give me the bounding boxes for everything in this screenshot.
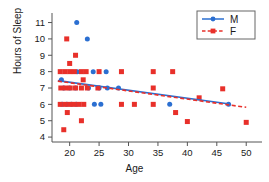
data-point-f <box>132 102 137 107</box>
x-tick-label: 50 <box>241 147 252 158</box>
data-point-f <box>79 118 84 123</box>
data-point-f <box>97 69 102 74</box>
data-point-f <box>185 119 190 124</box>
data-point-f <box>72 69 77 74</box>
data-point-f <box>151 69 156 74</box>
y-axis: 4567891011 <box>34 13 52 142</box>
y-tick-label: 11 <box>35 17 45 28</box>
x-tick-label: 35 <box>153 147 164 158</box>
x-tick-label: 40 <box>182 147 193 158</box>
data-point-f <box>62 102 67 107</box>
data-point-m <box>92 102 97 107</box>
x-axis: 20253035404550 <box>52 142 262 158</box>
plot-area: 4567891011 20253035404550 MF <box>0 0 269 182</box>
scatter-chart: Hours of Sleep Age 4567891011 2025303540… <box>0 0 269 182</box>
data-point-f <box>151 102 156 107</box>
data-point-f <box>73 53 78 58</box>
data-point-m <box>167 102 172 107</box>
data-point-f <box>84 69 89 74</box>
y-tick-label: 9 <box>40 50 45 61</box>
data-point-f <box>79 69 84 74</box>
legend-marker-f <box>211 29 216 34</box>
data-point-f <box>81 102 86 107</box>
y-tick-label: 10 <box>34 33 45 44</box>
legend-label-m: M <box>230 14 238 25</box>
data-point-f <box>79 86 84 91</box>
data-point-f <box>58 69 63 74</box>
y-tick-label: 5 <box>40 115 45 126</box>
y-tick-label: 4 <box>40 131 45 142</box>
data-point-f <box>170 69 175 74</box>
data-point-m <box>98 102 103 107</box>
y-tick-label: 7 <box>40 82 45 93</box>
data-point-f <box>151 86 156 91</box>
legend-label-f: F <box>230 26 236 37</box>
data-point-f <box>61 127 66 132</box>
legend: MF <box>197 11 255 39</box>
data-point-f <box>64 36 69 41</box>
data-point-f <box>67 69 72 74</box>
data-point-f <box>62 69 67 74</box>
legend-marker-m <box>211 17 216 22</box>
data-point-f <box>173 110 178 115</box>
data-point-m <box>104 69 109 74</box>
data-point-f <box>67 61 72 66</box>
data-point-f <box>68 86 73 91</box>
data-point-m <box>74 20 79 25</box>
data-point-f <box>85 86 90 91</box>
data-point-m <box>85 36 90 41</box>
y-tick-label: 8 <box>40 66 45 77</box>
data-point-f <box>72 102 77 107</box>
data-point-f <box>81 77 86 82</box>
data-point-f <box>77 102 82 107</box>
data-point-f <box>65 110 70 115</box>
x-tick-label: 45 <box>212 147 223 158</box>
data-point-f <box>119 102 124 107</box>
data-point-f <box>244 120 249 125</box>
data-point-f <box>67 102 72 107</box>
x-tick-label: 20 <box>64 147 75 158</box>
x-tick-label: 30 <box>123 147 134 158</box>
data-point-f <box>58 86 63 91</box>
y-tick-label: 6 <box>40 99 45 110</box>
data-point-f <box>220 86 225 91</box>
data-point-f <box>73 86 78 91</box>
data-point-f <box>119 69 124 74</box>
data-point-f <box>63 86 68 91</box>
data-point-m <box>91 69 96 74</box>
data-point-f <box>58 102 63 107</box>
x-tick-label: 25 <box>94 147 105 158</box>
